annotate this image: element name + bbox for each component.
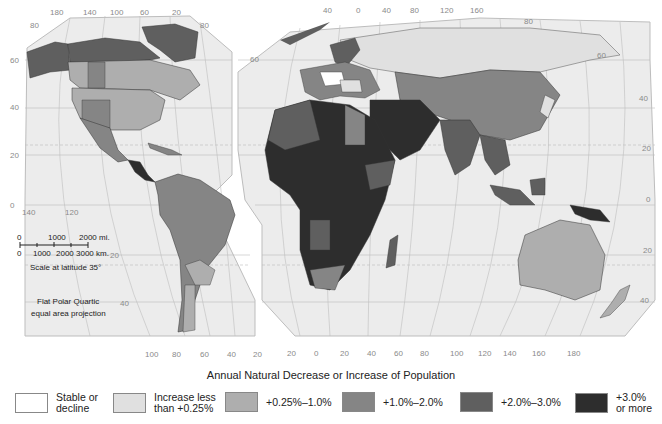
svg-text:60: 60 xyxy=(140,8,149,17)
svg-text:20: 20 xyxy=(110,251,119,260)
svg-text:180: 180 xyxy=(50,8,64,17)
svg-text:80: 80 xyxy=(30,21,39,30)
svg-text:40: 40 xyxy=(10,103,19,112)
svg-text:40: 40 xyxy=(382,6,391,15)
svg-text:2000: 2000 xyxy=(56,249,74,258)
legend-swatch xyxy=(15,393,48,413)
svg-text:160: 160 xyxy=(532,349,546,358)
svg-text:60: 60 xyxy=(200,350,209,359)
svg-text:120: 120 xyxy=(65,208,79,217)
svg-text:40: 40 xyxy=(120,299,129,308)
legend-label: Increase less than +0.25% xyxy=(154,392,216,414)
svg-text:100: 100 xyxy=(450,349,464,358)
legend-swatch xyxy=(225,392,258,412)
svg-text:1000: 1000 xyxy=(33,249,51,258)
svg-text:140: 140 xyxy=(83,8,97,17)
svg-text:140: 140 xyxy=(22,208,36,217)
svg-text:60: 60 xyxy=(10,56,19,65)
svg-text:140: 140 xyxy=(503,349,517,358)
americas-panel xyxy=(25,16,255,336)
svg-text:Flat Polar Quartic: Flat Polar Quartic xyxy=(37,297,99,306)
svg-text:20: 20 xyxy=(340,349,349,358)
svg-text:0: 0 xyxy=(10,201,15,210)
svg-text:60: 60 xyxy=(250,55,259,64)
svg-text:180: 180 xyxy=(567,349,581,358)
svg-text:80: 80 xyxy=(420,349,429,358)
eurasia-africa-panel xyxy=(238,18,655,336)
svg-text:120: 120 xyxy=(478,349,492,358)
legend-label: +3.0% or more xyxy=(616,392,652,414)
legend-label: +1.0%–2.0% xyxy=(383,397,443,408)
legend-label: Stable or decline xyxy=(56,392,98,414)
svg-text:100: 100 xyxy=(110,8,124,17)
svg-text:0: 0 xyxy=(646,195,651,204)
svg-text:40: 40 xyxy=(323,6,332,15)
legend-item-3-or-more: +3.0% or more xyxy=(575,392,652,414)
svg-text:0: 0 xyxy=(17,233,22,242)
svg-text:80: 80 xyxy=(200,21,209,30)
legend-item-less-than-025: Increase less than +0.25% xyxy=(113,392,216,414)
legend-item-1-to-2: +1.0%–2.0% xyxy=(342,392,443,412)
legend-item-2-to-3: +2.0%–3.0% xyxy=(460,392,561,412)
svg-text:40: 40 xyxy=(227,350,236,359)
svg-text:20: 20 xyxy=(643,246,652,255)
svg-text:20: 20 xyxy=(253,350,262,359)
svg-text:100: 100 xyxy=(145,350,159,359)
legend: Stable or decline Increase less than +0.… xyxy=(15,392,660,422)
legend-item-025-to-1: +0.25%–1.0% xyxy=(225,392,332,412)
legend-title: Annual Natural Decrease or Increase of P… xyxy=(0,369,662,381)
svg-text:Scale at latitude 35°: Scale at latitude 35° xyxy=(30,263,101,272)
svg-text:60: 60 xyxy=(597,51,606,60)
svg-text:160: 160 xyxy=(470,6,484,15)
svg-text:60: 60 xyxy=(394,349,403,358)
svg-text:20: 20 xyxy=(10,151,19,160)
svg-text:20: 20 xyxy=(642,144,651,153)
svg-text:0: 0 xyxy=(356,6,361,15)
svg-text:20: 20 xyxy=(172,8,181,17)
legend-swatch xyxy=(342,392,375,412)
svg-text:80: 80 xyxy=(524,17,533,26)
legend-label: +0.25%–1.0% xyxy=(266,397,332,408)
svg-text:3000 km.: 3000 km. xyxy=(76,249,109,258)
svg-text:120: 120 xyxy=(440,6,454,15)
svg-text:40: 40 xyxy=(639,94,648,103)
svg-text:80: 80 xyxy=(410,6,419,15)
legend-label: +2.0%–3.0% xyxy=(501,397,561,408)
legend-item-stable: Stable or decline xyxy=(15,392,98,414)
svg-text:80: 80 xyxy=(172,350,181,359)
svg-text:0: 0 xyxy=(17,249,22,258)
svg-text:0: 0 xyxy=(314,349,319,358)
legend-swatch xyxy=(575,393,608,413)
svg-text:40: 40 xyxy=(640,296,649,305)
svg-text:1000: 1000 xyxy=(48,233,66,242)
svg-text:equal area projection: equal area projection xyxy=(31,309,106,318)
world-population-map: 180 140 100 60 20 100 80 60 40 20 80 60 … xyxy=(0,0,662,360)
svg-text:2000 mi.: 2000 mi. xyxy=(79,233,110,242)
legend-swatch xyxy=(460,392,493,412)
svg-text:40: 40 xyxy=(367,349,376,358)
svg-text:20: 20 xyxy=(287,349,296,358)
legend-swatch xyxy=(113,393,146,413)
